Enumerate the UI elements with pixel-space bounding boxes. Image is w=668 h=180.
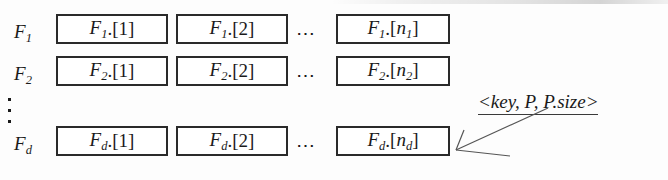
cell-fd-n-var: Fd — [367, 129, 385, 154]
vertical-ellipsis-dot — [8, 109, 11, 112]
cell-f2-2-var: F2 — [210, 59, 228, 84]
cell-fd-1: Fd.[1] — [56, 126, 168, 156]
cell-f2-n-index: [n2] — [390, 59, 418, 84]
cell-f1-2-index: [2] — [232, 18, 254, 40]
row-label-fd: Fd — [14, 134, 32, 156]
cell-f1-n: F1.[n1] — [336, 14, 450, 44]
cell-fd-n: Fd.[nd] — [336, 126, 450, 156]
cell-f1-n-var: F1 — [367, 17, 385, 42]
cell-f2-1: F2.[1] — [56, 56, 168, 86]
scan-artifact — [330, 0, 668, 4]
cell-f1-1: F1.[1] — [56, 14, 168, 44]
cell-f2-2: F2.[2] — [176, 56, 288, 86]
cell-fd-1-var: Fd — [90, 129, 108, 154]
figure-container: F1 F1.[1] F1.[2] ⋯ F1.[n1] F2 F2.[1] F2.… — [0, 0, 668, 180]
cell-f2-1-index: [1] — [112, 60, 134, 82]
annotation-key-tuple: <key, P, P.size> — [478, 92, 598, 115]
cell-f1-2-var: F1 — [210, 17, 228, 42]
vertical-ellipsis-dot — [8, 120, 11, 123]
cell-fd-2-index: [2] — [232, 130, 254, 152]
row-1-ellipsis: ⋯ — [296, 24, 317, 43]
vertical-ellipsis-dot — [8, 98, 11, 101]
cell-fd-2: Fd.[2] — [176, 126, 288, 156]
cell-fd-1-index: [1] — [112, 130, 134, 152]
cell-f1-1-index: [1] — [112, 18, 134, 40]
cell-f2-n: F2.[n2] — [336, 56, 450, 86]
cell-f2-1-var: F2 — [90, 59, 108, 84]
cell-f1-n-index: [n1] — [390, 17, 418, 42]
cell-fd-n-index: [nd] — [390, 129, 418, 154]
row-label-f2-base: F — [14, 63, 26, 84]
row-label-fd-base: F — [14, 133, 26, 154]
row-label-fd-sub: d — [26, 143, 32, 157]
vertical-ellipsis — [8, 98, 14, 124]
cell-f1-2: F1.[2] — [176, 14, 288, 44]
row-label-f1-sub: 1 — [26, 31, 32, 45]
row-label-f1: F1 — [14, 22, 32, 44]
row-3-ellipsis: ⋯ — [296, 136, 317, 155]
cell-f2-n-var: F2 — [367, 59, 385, 84]
row-2-ellipsis: ⋯ — [296, 66, 317, 85]
row-label-f2: F2 — [14, 64, 32, 86]
cell-f1-1-var: F1 — [90, 17, 108, 42]
cell-f2-2-index: [2] — [232, 60, 254, 82]
row-label-f2-sub: 2 — [26, 73, 32, 87]
cell-fd-2-var: Fd — [210, 129, 228, 154]
row-label-f1-base: F — [14, 21, 26, 42]
